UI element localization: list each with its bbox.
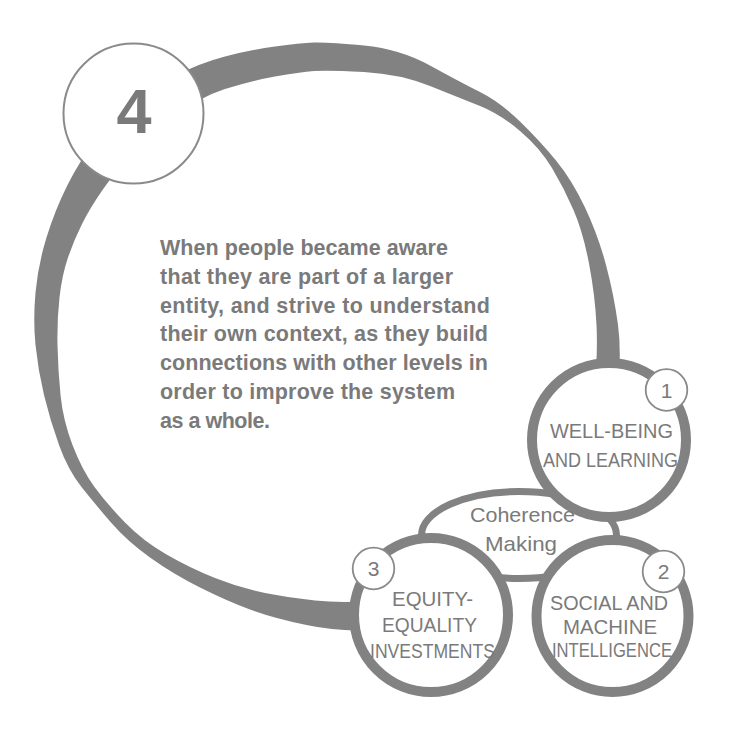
node-3-label-line: INVESTMENTS	[370, 640, 495, 662]
node-2-label-line: INTELLIGENCE	[552, 639, 672, 661]
core-label-line: Making	[485, 532, 557, 555]
stage-number: 4	[116, 76, 151, 146]
node-3-number: 3	[368, 557, 380, 580]
node-3-badge: 3	[353, 548, 395, 590]
node-1-badge: 1	[646, 369, 688, 411]
description-line: their own context, as they build	[160, 322, 488, 346]
stage-badge: 4	[64, 44, 204, 184]
node-2-number: 2	[658, 560, 670, 583]
description-line: that they are part of a larger	[160, 265, 454, 289]
node-2-label-line: SOCIAL AND	[550, 592, 668, 614]
description-line: as a whole.	[160, 409, 270, 433]
node-2-label: SOCIAL AND MACHINE INTELLIGENCE	[550, 592, 672, 661]
node-3-label-line: EQUALITY	[382, 614, 477, 636]
stage-description: When people became aware that they are p…	[160, 236, 490, 433]
node-1-label-line: WELL-BEING	[550, 420, 673, 442]
description-line: entity, and strive to understand	[160, 294, 490, 318]
core-label-line: Coherence	[470, 503, 575, 526]
description-line: When people became aware	[160, 236, 448, 260]
coherence-diagram: 4 When people became aware that they are…	[0, 0, 730, 738]
node-2-badge: 2	[643, 551, 685, 593]
node-1-number: 1	[661, 379, 673, 402]
description-line: connections with other levels in	[160, 351, 488, 375]
node-1-label-line: AND LEARNING	[543, 449, 678, 471]
description-line: order to improve the system	[160, 380, 455, 404]
node-3-label-line: EQUITY-	[392, 588, 473, 610]
node-2-label-line: MACHINE	[563, 616, 657, 638]
